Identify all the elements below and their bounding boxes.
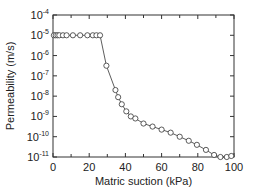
data-point-marker	[203, 147, 208, 152]
data-series	[51, 33, 234, 160]
y-tick-label: 10-8	[31, 89, 50, 102]
x-axis-label: Matric suction (kPa)	[95, 175, 192, 187]
x-tick-label: 60	[155, 161, 167, 173]
x-tick-label: 0	[50, 161, 56, 173]
y-tick-label: 10-11	[27, 150, 49, 163]
data-point-marker	[119, 102, 124, 107]
y-tick-label: 10-7	[31, 69, 50, 82]
data-point-marker	[133, 116, 138, 121]
y-tick-label: 10-6	[31, 49, 50, 62]
x-tick-label: 20	[83, 161, 95, 173]
data-point-marker	[159, 127, 164, 132]
data-point-marker	[211, 152, 216, 157]
y-tick-label: 10-5	[31, 28, 50, 41]
x-tick-label: 100	[225, 161, 243, 173]
y-tick-label: 10-4	[31, 8, 50, 21]
data-point-marker	[229, 153, 234, 158]
data-point-marker	[177, 134, 182, 139]
x-tick-label: 40	[119, 161, 131, 173]
data-point-marker	[150, 124, 155, 129]
data-point-marker	[186, 138, 191, 143]
data-point-marker	[194, 142, 199, 147]
data-point-marker	[218, 154, 223, 159]
data-point-marker	[97, 33, 102, 38]
y-tick-label: 10-10	[27, 130, 49, 143]
data-point-marker	[116, 95, 121, 100]
y-axis-label: Permeability (m/s)	[4, 42, 16, 131]
data-point-marker	[124, 109, 129, 114]
x-tick-label: 80	[192, 161, 204, 173]
x-axis-ticks: 020406080100	[50, 15, 243, 173]
data-point-marker	[104, 63, 109, 68]
data-point-marker	[168, 130, 173, 135]
series-line	[54, 35, 231, 157]
data-point-marker	[85, 33, 90, 38]
data-point-marker	[70, 33, 75, 38]
data-point-marker	[141, 121, 146, 126]
permeability-chart: 10-410-510-610-710-810-910-1010-11 02040…	[0, 0, 256, 193]
data-point-marker	[113, 87, 118, 92]
data-point-marker	[78, 33, 83, 38]
y-tick-label: 10-9	[31, 109, 50, 122]
data-point-marker	[64, 33, 69, 38]
y-axis-ticks: 10-410-510-610-710-810-910-1010-11	[27, 8, 234, 163]
